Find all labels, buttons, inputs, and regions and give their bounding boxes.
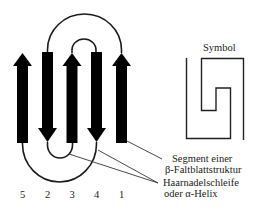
label-hairpin-line1: Haarnadelschleife (163, 177, 239, 188)
strand-number-2: 2 (42, 189, 54, 200)
strand-1-up-arrow (112, 53, 131, 143)
bottom-arc-small (48, 142, 73, 158)
strand-5-up-arrow (13, 53, 32, 143)
leader-line-segment (127, 141, 162, 159)
top-arc-small (72, 39, 96, 53)
strand-2-down-arrow (38, 52, 57, 142)
label-segment-line2: β-Faltblattstruktur (165, 164, 242, 175)
strand-3-up-arrow (63, 53, 82, 143)
strand-number-5: 5 (17, 189, 29, 200)
label-segment-line1: Segment einer (172, 153, 232, 164)
topology-symbol (187, 58, 244, 140)
symbol-title: Symbol (203, 42, 236, 53)
strand-4-down-arrow (87, 52, 106, 142)
strand-number-4: 4 (91, 189, 103, 200)
bottom-arc-large (23, 142, 97, 182)
top-arc-large (48, 14, 122, 53)
strand-number-3: 3 (66, 189, 78, 200)
strand-number-1: 1 (116, 189, 128, 200)
label-hairpin-line2: oder α-Helix (164, 188, 218, 199)
